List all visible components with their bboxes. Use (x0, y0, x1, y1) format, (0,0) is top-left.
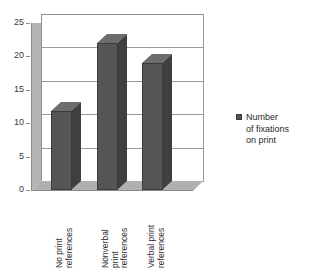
bar-chart: 25 20 15 10 5 0 No print references Nonv… (0, 0, 312, 272)
y-axis-tick-label-25: 25 (4, 18, 24, 27)
legend-label-line-1: Number (246, 112, 278, 124)
y-axis-tick-label-0: 0 (4, 185, 24, 194)
x-axis-label-verbal-print-references: Verbal print references (147, 225, 166, 268)
bar-side-face (71, 102, 81, 190)
y-axis-tick-mark (26, 23, 30, 24)
y-axis-tick-label-20: 20 (4, 51, 24, 60)
legend-label-line-3: on print (246, 135, 276, 147)
chart-left-wall-outer-edge (31, 23, 32, 191)
x-axis-label-nonverbal-print-references: Nonverbal print references (101, 228, 130, 268)
bar-front-face (97, 43, 118, 190)
y-axis-tick-mark (26, 190, 30, 191)
chart-left-wall-inner-edge (41, 14, 42, 182)
chart-left-wall (31, 23, 41, 191)
legend-label-line-2: of fixations (246, 124, 289, 136)
bar-side-face (117, 34, 127, 190)
y-axis-tick-mark (26, 157, 30, 158)
bar-front-face (51, 111, 72, 190)
y-axis-tick-label-5: 5 (4, 152, 24, 161)
x-axis-label-no-print-references: No print references (55, 228, 74, 268)
y-axis-tick-label-15: 15 (4, 85, 24, 94)
plot-right-border (203, 14, 204, 182)
bar-front-face (142, 63, 163, 190)
legend-swatch-icon (236, 114, 242, 120)
plot-top-border (41, 14, 203, 15)
bar-side-face (162, 54, 172, 190)
y-axis-tick-mark (26, 56, 30, 57)
y-axis-tick-mark (26, 123, 30, 124)
y-axis-tick-mark (26, 90, 30, 91)
y-axis-tick-label-10: 10 (4, 118, 24, 127)
chart-legend: Number of fixations on print (236, 112, 308, 152)
chart-floor-front-edge (31, 190, 193, 191)
